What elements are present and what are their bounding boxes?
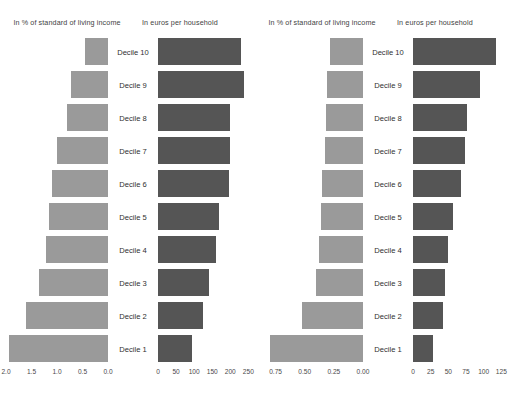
bar-percent: [71, 71, 108, 98]
euros-bar-cell: [413, 69, 507, 102]
bar-row: Decile 5: [0, 201, 254, 234]
euros-bar-cell: [413, 300, 507, 333]
axis-euros-left: 050100150200250: [158, 368, 252, 382]
bar-percent: [330, 38, 363, 65]
euros-bar-cell: [413, 201, 507, 234]
axis-tick-label: 0: [411, 368, 415, 375]
bar-euros: [158, 335, 192, 362]
axis-tick-label: 0.0: [103, 368, 112, 375]
bar-row: Decile 6: [0, 168, 254, 201]
axis-tick-label: 1.0: [52, 368, 61, 375]
bar-euros: [158, 137, 230, 164]
percent-bar-cell: [6, 69, 108, 102]
bar-euros: [413, 137, 465, 164]
euros-bar-cell: [158, 102, 252, 135]
bar-percent: [67, 104, 108, 131]
decile-label-cell: Decile 2: [108, 300, 158, 333]
bar-row: Decile 4: [255, 234, 509, 267]
axis-tick-label: 250: [243, 368, 254, 375]
bar-row: Decile 3: [255, 267, 509, 300]
axis-tick-label: 100: [189, 368, 200, 375]
bar-euros: [158, 170, 229, 197]
bar-row: Decile 8: [0, 102, 254, 135]
right-chart-half: In % of standard of living income In eur…: [255, 0, 509, 407]
bar-euros: [158, 269, 209, 296]
bar-percent: [85, 38, 108, 65]
decile-label-cell: Decile 7: [108, 135, 158, 168]
percent-bar-cell: [261, 69, 363, 102]
axis-tick-label: 1.5: [27, 368, 36, 375]
decile-label: Decile 9: [363, 69, 413, 102]
decile-label: Decile 7: [363, 135, 413, 168]
decile-label-cell: Decile 3: [363, 267, 413, 300]
bar-euros: [413, 203, 453, 230]
decile-label: Decile 3: [108, 267, 158, 300]
percent-bar-cell: [6, 36, 108, 69]
decile-label: Decile 3: [363, 267, 413, 300]
bar-row: Decile 2: [255, 300, 509, 333]
decile-label: Decile 6: [108, 168, 158, 201]
bar-euros: [158, 71, 244, 98]
axis-tick-label: 125: [496, 368, 507, 375]
euros-bar-cell: [413, 168, 507, 201]
bar-euros: [158, 38, 241, 65]
bar-row: Decile 3: [0, 267, 254, 300]
decile-label-cell: Decile 10: [108, 36, 158, 69]
bar-row: Decile 1: [255, 333, 509, 366]
bar-rows-left: Decile 10Decile 9Decile 8Decile 7Decile …: [0, 36, 254, 366]
bar-rows-right: Decile 10Decile 9Decile 8Decile 7Decile …: [255, 36, 509, 366]
percent-bar-cell: [261, 168, 363, 201]
axis-tick-label: 25: [427, 368, 434, 375]
decile-label-cell: Decile 4: [363, 234, 413, 267]
axis-tick-label: 0.5: [78, 368, 87, 375]
decile-label-cell: Decile 3: [108, 267, 158, 300]
euros-bar-cell: [413, 267, 507, 300]
decile-label-cell: Decile 5: [363, 201, 413, 234]
euros-bar-cell: [413, 102, 507, 135]
percent-bar-cell: [6, 201, 108, 234]
bar-row: Decile 9: [255, 69, 509, 102]
decile-label-cell: Decile 10: [363, 36, 413, 69]
bar-percent: [316, 269, 363, 296]
axis-tick-label: 50: [172, 368, 179, 375]
euros-bar-cell: [158, 36, 252, 69]
bar-percent: [322, 170, 363, 197]
decile-label-cell: Decile 1: [108, 333, 158, 366]
panel-title-euros-left: In euros per household: [142, 18, 252, 28]
euros-bar-cell: [158, 135, 252, 168]
decile-label-cell: Decile 9: [108, 69, 158, 102]
bar-percent: [46, 236, 108, 263]
percent-bar-cell: [6, 300, 108, 333]
bar-percent: [26, 302, 108, 329]
axis-tick-label: 75: [462, 368, 469, 375]
decile-label: Decile 7: [108, 135, 158, 168]
decile-label: Decile 8: [363, 102, 413, 135]
euros-bar-cell: [158, 267, 252, 300]
decile-label-cell: Decile 9: [363, 69, 413, 102]
bar-percent: [327, 71, 363, 98]
bar-percent: [321, 203, 363, 230]
bar-row: Decile 5: [255, 201, 509, 234]
bar-euros: [158, 302, 203, 329]
bar-percent: [57, 137, 108, 164]
euros-bar-cell: [413, 135, 507, 168]
decile-label-cell: Decile 8: [108, 102, 158, 135]
decile-label: Decile 4: [108, 234, 158, 267]
decile-label-cell: Decile 1: [363, 333, 413, 366]
euros-bar-cell: [413, 36, 507, 69]
decile-label-cell: Decile 6: [363, 168, 413, 201]
bar-row: Decile 8: [255, 102, 509, 135]
bar-row: Decile 7: [0, 135, 254, 168]
euros-bar-cell: [158, 300, 252, 333]
bar-euros: [158, 203, 219, 230]
bar-percent: [319, 236, 363, 263]
percent-bar-cell: [261, 300, 363, 333]
bar-row: Decile 2: [0, 300, 254, 333]
bar-euros: [413, 38, 496, 65]
axis-euros-right: 0255075100125: [413, 368, 507, 382]
euros-bar-cell: [413, 234, 507, 267]
axis-percent-right: 0.750.500.250.00: [261, 368, 363, 382]
bar-row: Decile 7: [255, 135, 509, 168]
axis-percent-left: 2.01.51.00.50.0: [6, 368, 108, 382]
axis-tick-label: 0.00: [357, 368, 370, 375]
